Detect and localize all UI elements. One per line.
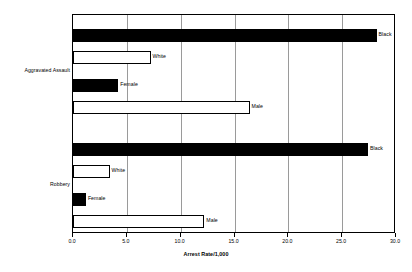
bar-label-robbery-black: Black <box>370 146 383 151</box>
x-tick-mark <box>395 233 396 237</box>
bar-aggravated-assault-male <box>73 101 250 114</box>
bar-label-aggravated-assault-male: Male <box>252 104 263 109</box>
bar-label-aggravated-assault-female: Female <box>120 82 138 87</box>
gridline <box>235 15 236 232</box>
bar-aggravated-assault-white <box>73 51 151 64</box>
bar-label-robbery-female: Female <box>88 196 106 201</box>
x-tick-label: 5.0 <box>122 239 129 244</box>
bar-label-aggravated-assault-white: White <box>153 54 167 59</box>
plot-area <box>72 14 395 233</box>
x-tick-label: 15.0 <box>228 239 238 244</box>
x-axis-title: Arrest Rate/1,000 <box>0 252 412 257</box>
x-tick-mark <box>180 233 181 237</box>
x-tick-label: 20.0 <box>282 239 292 244</box>
gridline <box>342 15 343 232</box>
arrest-rate-bar-chart: Aggravated Assault Robbery Arrest Rate/1… <box>0 0 412 272</box>
x-tick-label: 10.0 <box>175 239 185 244</box>
bar-robbery-black <box>73 143 368 156</box>
bar-label-robbery-white: White <box>112 168 126 173</box>
gridline <box>288 15 289 232</box>
x-tick-label: 25.0 <box>336 239 346 244</box>
gridline <box>127 15 128 232</box>
bar-robbery-white <box>73 165 110 178</box>
x-tick-label: 30.0 <box>390 239 400 244</box>
bar-robbery-male <box>73 215 204 228</box>
group-label-robbery: Robbery <box>50 182 70 187</box>
x-tick-mark <box>126 233 127 237</box>
bar-label-aggravated-assault-black: Black <box>379 32 392 37</box>
x-tick-label: 0.0 <box>68 239 75 244</box>
group-label-aggravated-assault: Aggravated Assault <box>24 68 70 73</box>
bar-aggravated-assault-female <box>73 79 118 92</box>
x-tick-mark <box>72 233 73 237</box>
bar-label-robbery-male: Male <box>206 218 217 223</box>
gridline <box>181 15 182 232</box>
x-tick-mark <box>341 233 342 237</box>
x-tick-mark <box>287 233 288 237</box>
bar-robbery-female <box>73 193 86 206</box>
x-tick-mark <box>234 233 235 237</box>
bar-aggravated-assault-black <box>73 29 377 42</box>
